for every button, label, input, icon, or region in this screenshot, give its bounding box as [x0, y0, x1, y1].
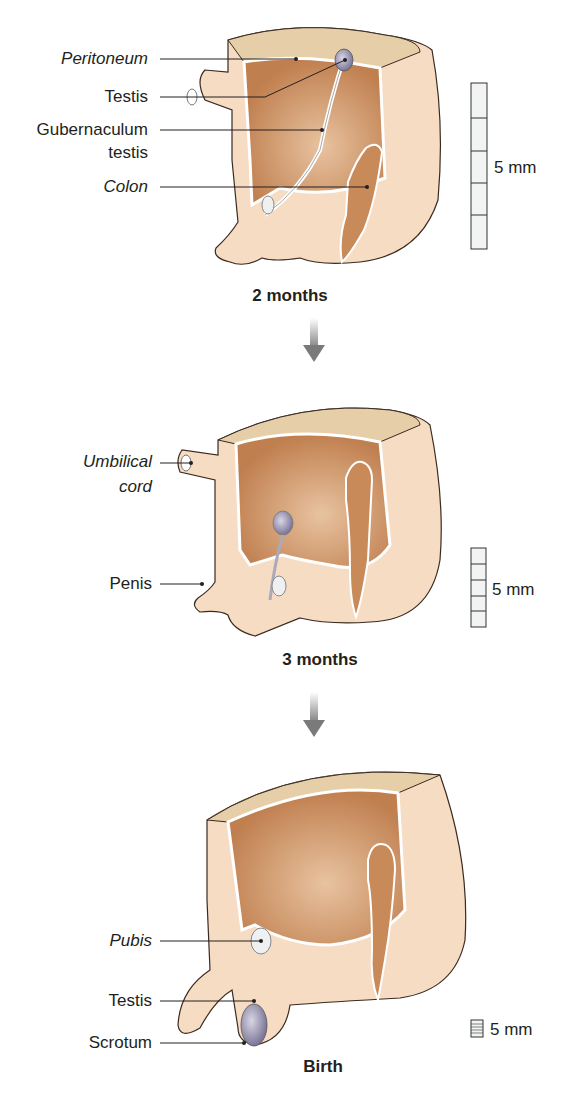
panel-birth	[160, 772, 483, 1046]
label-pubis: Pubis	[109, 931, 152, 951]
label-gubernaculum: Gubernaculum	[36, 120, 148, 140]
down-arrow-icon	[303, 692, 325, 737]
stage-caption-2-months: 2 months	[200, 286, 380, 306]
scale-bar-3-months	[471, 548, 486, 627]
label-testis: Testis	[105, 87, 148, 107]
panel-2-months	[160, 28, 487, 265]
label-gubernaculum-testis: testis	[108, 143, 148, 163]
descent-of-testis-illustration	[0, 0, 566, 1116]
scale-bar-2-months	[471, 83, 487, 249]
scale-bar-birth	[471, 1020, 483, 1037]
label-testis-birth: Testis	[109, 991, 152, 1011]
label-scrotum: Scrotum	[89, 1033, 152, 1053]
label-umbilical-cord: cord	[119, 477, 152, 497]
label-penis: Penis	[109, 574, 152, 594]
scale-label-2-months: 5 mm	[494, 158, 537, 178]
scale-label-birth: 5 mm	[490, 1020, 533, 1040]
label-colon: Colon	[104, 177, 148, 197]
stage-caption-birth: Birth	[233, 1057, 413, 1077]
label-peritoneum: Peritoneum	[61, 49, 148, 69]
panel-3-months	[160, 408, 486, 636]
scale-label-3-months: 5 mm	[492, 580, 535, 600]
stage-caption-3-months: 3 months	[230, 650, 410, 670]
down-arrow-icon	[303, 318, 325, 362]
label-umbilical: Umbilical	[83, 452, 152, 472]
